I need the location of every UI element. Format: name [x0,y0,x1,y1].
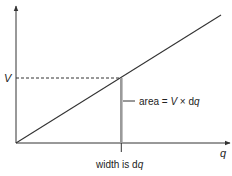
area-prefix: area = [139,96,170,107]
width-annotation: width is dq [95,159,144,170]
x-axis-label: q [220,147,227,159]
voltage-line [16,15,221,143]
area-times: × d [177,96,194,107]
area-annotation: area = V × dq [139,96,200,107]
area-q: q [194,96,200,107]
y-axis-label: V [4,72,13,84]
width-prefix: width is d [95,159,138,170]
area-strip [120,78,123,143]
voltage-charge-diagram: V q area = V × dq width is dq [0,0,232,176]
width-q: q [138,159,144,170]
